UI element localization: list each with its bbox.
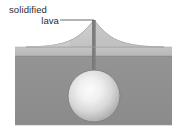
label-line-lava: lava: [4, 15, 60, 26]
solidified-lava-label: solidified lava: [4, 4, 60, 26]
label-line-solidified: solidified: [4, 4, 60, 15]
magma-chamber: [68, 70, 120, 122]
diagram-canvas: solidified lava: [0, 0, 184, 138]
